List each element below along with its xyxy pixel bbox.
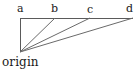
geometry-figure: a b c d origin	[0, 0, 140, 72]
vertex-label-origin: origin	[2, 56, 39, 68]
vertex-label-b: b	[51, 3, 58, 14]
ray-origin-c	[20, 18, 90, 52]
vertex-label-d: d	[126, 3, 133, 14]
vertex-label-c: c	[87, 4, 93, 15]
vertex-label-a: a	[17, 3, 24, 14]
